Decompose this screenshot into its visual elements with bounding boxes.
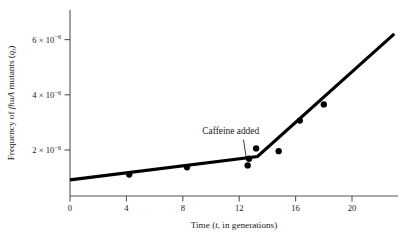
x-tick-label-20: 20 (348, 203, 357, 213)
data-point (245, 162, 251, 168)
x-axis-label: Time (t, in generations) (191, 220, 277, 230)
data-point (276, 148, 282, 154)
annotation-label: Caffeine added (202, 126, 259, 136)
data-point (321, 101, 327, 107)
y-axis-label: Frequency of fhuA mutants (qt) (6, 46, 17, 161)
x-tick-label-12: 12 (235, 203, 244, 213)
data-point (246, 156, 252, 162)
data-point (297, 117, 303, 123)
x-tick-label-4: 4 (124, 203, 129, 213)
data-point (253, 145, 259, 151)
data-point (184, 164, 190, 170)
data-point (126, 171, 132, 177)
x-tick-label-0: 0 (68, 203, 72, 213)
x-tick-label-8: 8 (181, 203, 185, 213)
chart-figure: 2×10−6 4×10−6 6×10−6 0 4 8 12 16 20 Time… (0, 0, 402, 240)
x-tick-label-16: 16 (291, 203, 300, 213)
